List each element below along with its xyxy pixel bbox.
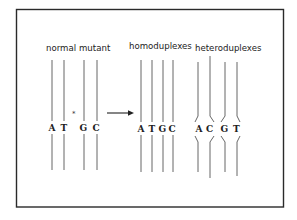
label-mutant: mutant xyxy=(79,43,111,53)
base-input-2: T xyxy=(61,123,68,133)
diagram-canvas: normal mutant homoduplexes heteroduplexe… xyxy=(0,0,297,220)
base-input-1: A xyxy=(48,123,57,133)
base-input-3: G xyxy=(80,123,88,133)
base-hetero-1: A xyxy=(195,124,204,134)
mutation-asterisk-icon: * xyxy=(72,110,76,118)
base-homo-3: G xyxy=(159,124,167,134)
heteroduplex-strands xyxy=(195,56,240,178)
homoduplex-strands xyxy=(141,60,173,172)
base-input-4: C xyxy=(93,123,100,133)
strand-hetero-3 xyxy=(221,62,225,172)
label-normal: normal xyxy=(46,43,76,53)
base-homo-4: C xyxy=(169,124,176,134)
strand-hetero-2 xyxy=(210,56,214,178)
base-homo-2: T xyxy=(149,124,156,134)
base-homo-1: A xyxy=(137,124,146,134)
diagram-frame xyxy=(17,10,284,208)
strand-hetero-1 xyxy=(195,62,198,172)
label-homoduplexes: homoduplexes xyxy=(129,41,192,51)
base-hetero-2: C xyxy=(206,124,213,134)
strand-hetero-4 xyxy=(237,62,240,176)
base-hetero-3: G xyxy=(221,124,229,134)
label-heteroduplexes: heteroduplexes xyxy=(195,43,262,53)
arrow-right-icon xyxy=(107,110,134,116)
base-hetero-4: T xyxy=(233,124,240,134)
